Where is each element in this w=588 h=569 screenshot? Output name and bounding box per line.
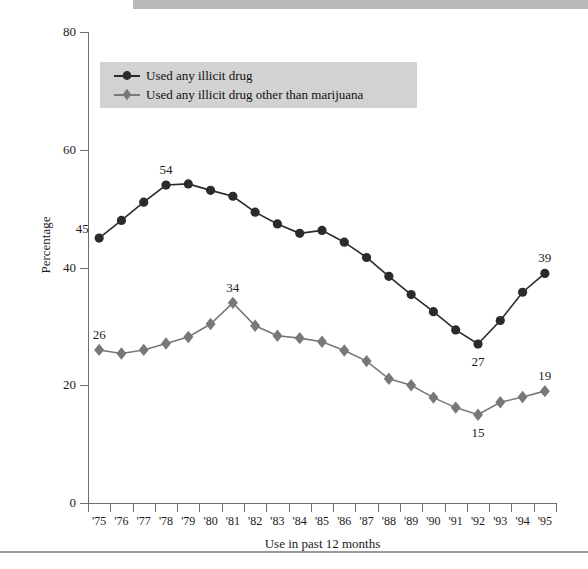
data-point-value-label: 15 [458,426,498,439]
data-point-diamond [317,335,327,347]
data-point-circle [429,307,438,316]
data-point-circle [384,272,393,281]
data-point-circle [518,288,527,297]
bottom-divider [0,551,588,553]
data-point-diamond [473,408,483,420]
data-point-circle [206,186,215,195]
data-point-diamond [116,347,126,359]
data-point-circle [273,219,282,228]
data-point-diamond [384,373,394,385]
data-point-circle [228,192,237,201]
data-point-circle [496,316,505,325]
data-point-circle [540,269,549,278]
data-point-circle [407,290,416,299]
data-point-circle [251,208,260,217]
data-point-circle [362,253,371,262]
data-point-circle [295,229,304,238]
data-point-circle [317,226,326,235]
data-point-circle [340,238,349,247]
data-point-diamond [295,332,305,344]
data-point-circle [184,179,193,188]
series-1 [95,179,550,348]
series-line [99,184,545,344]
data-point-diamond [94,344,104,356]
data-point-diamond [339,344,349,356]
data-point-diamond [518,391,528,403]
data-point-circle [139,198,148,207]
data-point-value-label: 27 [458,355,498,368]
chart-figure: 020406080 '75'76'77'78'79'80'81'82'83'84… [0,0,588,569]
data-point-circle [473,339,482,348]
data-point-diamond [139,344,149,356]
data-point-value-label: 39 [525,251,565,264]
data-point-circle [161,180,170,189]
data-point-diamond [161,337,171,349]
legend-label: Used any illicit drug other than marijua… [146,88,363,102]
data-point-diamond [428,391,438,403]
legend-item-used-any-illicit-drug: Used any illicit drug [114,67,253,85]
data-point-diamond [451,401,461,413]
data-point-value-label: 19 [525,369,565,382]
legend-item-used-any-illicit-drug-other-than-marijuana: Used any illicit drug other than marijua… [114,86,363,104]
data-point-value-label: 26 [79,328,119,341]
chart-legend: Used any illicit drug Used any illicit d… [100,62,417,108]
data-point-diamond [272,330,282,342]
data-point-value-label: 45 [62,222,102,235]
data-point-value-label: 34 [213,281,253,294]
data-point-diamond [183,331,193,343]
diamond-marker-icon [114,88,140,102]
data-point-diamond [406,379,416,391]
legend-label: Used any illicit drug [146,69,253,83]
data-point-diamond [495,396,505,408]
data-point-circle [117,216,126,225]
data-point-diamond [362,355,372,367]
circle-marker-icon [114,69,140,83]
data-point-value-label: 54 [146,163,186,176]
data-point-diamond [540,385,550,397]
data-point-circle [451,325,460,334]
